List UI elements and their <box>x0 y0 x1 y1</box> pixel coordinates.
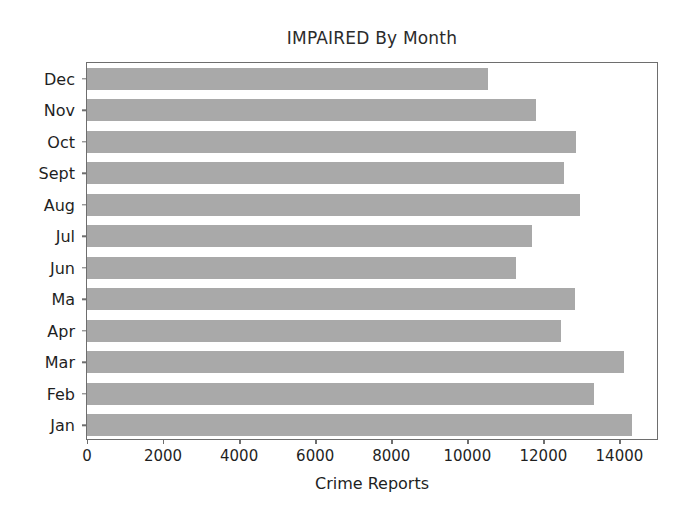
x-axis-label: Crime Reports <box>86 474 658 493</box>
x-tick-label: 12000 <box>520 447 568 465</box>
y-tick-label: Jul <box>56 227 75 246</box>
bar <box>87 194 580 216</box>
chart-title: IMPAIRED By Month <box>86 28 658 48</box>
bar <box>87 99 536 121</box>
bar <box>87 225 532 247</box>
bar <box>87 351 624 373</box>
bar-row: Feb <box>87 378 657 410</box>
bar-row: Mar <box>87 347 657 379</box>
x-tick-mark <box>239 439 240 444</box>
bar-row: Jan <box>87 410 657 442</box>
bar-row: Apr <box>87 315 657 347</box>
bar-row: Jun <box>87 252 657 284</box>
bar <box>87 383 594 405</box>
bar <box>87 68 488 90</box>
bar <box>87 320 561 342</box>
bar-row: Sept <box>87 158 657 190</box>
x-tick-label: 6000 <box>296 447 334 465</box>
bar-row: Aug <box>87 189 657 221</box>
x-tick-mark <box>467 439 468 444</box>
bar <box>87 414 632 436</box>
x-tick-mark <box>315 439 316 444</box>
y-tick-label: Oct <box>47 132 75 151</box>
x-tick-mark <box>163 439 164 444</box>
x-tick-mark <box>87 439 88 444</box>
x-tick-mark <box>391 439 392 444</box>
bar <box>87 162 564 184</box>
x-tick-label: 10000 <box>443 447 491 465</box>
y-tick-label: Aug <box>44 195 75 214</box>
bar <box>87 257 516 279</box>
bar <box>87 131 576 153</box>
x-tick-label: 4000 <box>220 447 258 465</box>
bar <box>87 288 575 310</box>
bar-row: Jul <box>87 221 657 253</box>
y-tick-label: Ma <box>51 290 75 309</box>
y-tick-label: Jun <box>50 258 75 277</box>
y-tick-label: Apr <box>47 321 75 340</box>
bar-row: Nov <box>87 95 657 127</box>
y-tick-label: Jan <box>50 416 75 435</box>
y-tick-label: Nov <box>44 101 75 120</box>
x-tick-label: 0 <box>82 447 92 465</box>
x-tick-mark <box>619 439 620 444</box>
y-tick-label: Sept <box>39 164 75 183</box>
bar-row: Ma <box>87 284 657 316</box>
chart-figure: IMPAIRED By Month DecNovOctSeptAugJulJun… <box>0 0 692 522</box>
x-tick-label: 14000 <box>596 447 644 465</box>
x-tick-label: 2000 <box>144 447 182 465</box>
x-tick-label: 8000 <box>372 447 410 465</box>
y-tick-label: Feb <box>47 384 75 403</box>
y-tick-label: Mar <box>45 353 75 372</box>
plot-area: DecNovOctSeptAugJulJunMaAprMarFebJan 020… <box>86 62 658 440</box>
y-tick-label: Dec <box>44 69 75 88</box>
bar-row: Oct <box>87 126 657 158</box>
x-tick-mark <box>543 439 544 444</box>
bar-row: Dec <box>87 63 657 95</box>
